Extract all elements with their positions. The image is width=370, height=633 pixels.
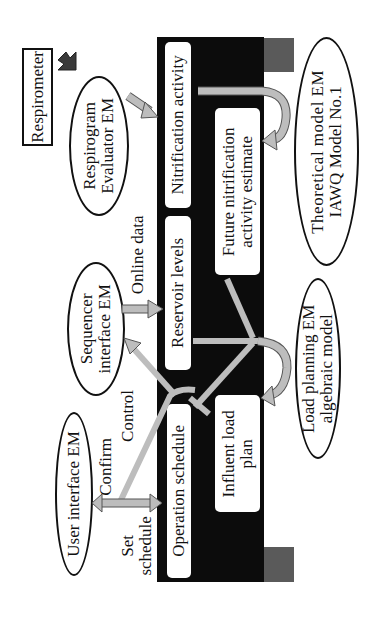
user-interface-connector <box>92 390 195 512</box>
load-planning-loop-arrow <box>258 341 287 406</box>
respirometer-to-evaluator-arrow <box>58 52 76 70</box>
evaluator-to-nitrification-arrow <box>128 96 158 118</box>
sequencer-to-reservoir-arrow <box>122 300 163 318</box>
arrows-layer <box>0 0 370 633</box>
theoretical-model-loop-arrow <box>198 91 286 150</box>
planning-junction <box>190 279 260 414</box>
control-arrow <box>124 338 175 395</box>
